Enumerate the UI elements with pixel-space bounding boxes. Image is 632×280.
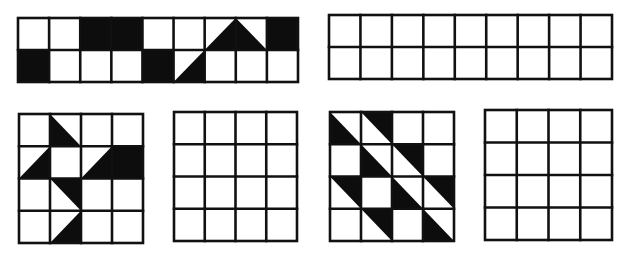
shaded-cell-full xyxy=(142,50,173,82)
bottom-3-pattern-grid xyxy=(330,112,454,241)
shaded-cell-ll xyxy=(361,144,392,176)
shaded-cell-ll xyxy=(236,18,267,50)
bottom-1-pattern-grid xyxy=(19,114,143,243)
shaded-cell-lr xyxy=(81,146,112,178)
shaded-cell-full xyxy=(267,18,298,50)
shaded-cell-lr xyxy=(174,50,205,82)
shaded-cell-full xyxy=(112,146,143,178)
bottom-4-blank-grid xyxy=(485,110,612,240)
shaded-cell-ur xyxy=(423,177,454,209)
shaded-cell-lr xyxy=(50,211,81,243)
shaded-cell-ll xyxy=(330,112,361,144)
shaded-cell-ur xyxy=(361,112,392,144)
shaded-cell-full xyxy=(80,18,111,50)
shaded-cell-ur xyxy=(392,144,423,176)
shaded-cell-ll xyxy=(423,209,454,241)
shaded-cell-full xyxy=(111,18,142,50)
shaded-cell-ll xyxy=(50,114,81,146)
shaded-cell-lr xyxy=(19,146,50,178)
shaded-cell-full xyxy=(18,50,49,82)
shaded-cell-ur xyxy=(50,179,81,211)
top-right-blank-grid xyxy=(329,15,612,79)
top-left-pattern-grid xyxy=(18,18,298,82)
shaded-cell-ur xyxy=(330,177,361,209)
bottom-2-blank-grid xyxy=(174,112,297,241)
shaded-cell-ll xyxy=(392,177,423,209)
shaded-cell-ur xyxy=(361,209,392,241)
shaded-cell-lr xyxy=(205,18,236,50)
